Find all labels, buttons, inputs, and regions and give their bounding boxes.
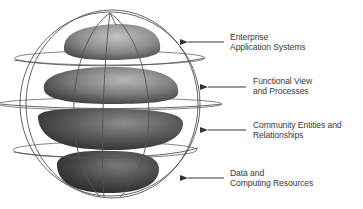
label-data-line1: Data and <box>230 168 313 178</box>
label-functional-line2: and Processes <box>253 86 312 96</box>
label-functional-line1: Functional View <box>253 76 312 86</box>
label-community-line1: Community Entities and <box>253 120 342 130</box>
pointer-arrows <box>188 42 246 178</box>
label-enterprise-line2: Application Systems <box>230 42 305 52</box>
label-data-line2: Computing Resources <box>230 178 313 188</box>
label-data: Data and Computing Resources <box>230 168 313 188</box>
layer-community <box>38 109 183 150</box>
label-community-line2: Relationships <box>253 130 342 140</box>
label-functional: Functional View and Processes <box>253 76 312 96</box>
layer-functional <box>44 67 179 104</box>
layer-enterprise <box>64 24 160 60</box>
label-community: Community Entities and Relationships <box>253 120 342 140</box>
label-enterprise: Enterprise Application Systems <box>230 32 305 52</box>
label-enterprise-line1: Enterprise <box>230 32 305 42</box>
